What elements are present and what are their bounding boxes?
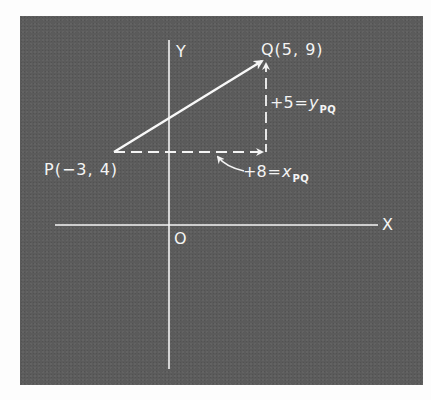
curved-pointer-arrow <box>218 157 244 171</box>
x-component-var: x <box>282 162 291 181</box>
diagram-canvas: Y X O Q(5, 9) P(−3, 4) +5=yPQ +8=xPQ <box>0 0 431 400</box>
y-component-var: y <box>309 93 318 112</box>
diagram-svg <box>0 0 431 400</box>
point-q-label: Q(5, 9) <box>261 42 324 58</box>
y-component-sub: PQ <box>319 104 336 115</box>
x-axis-label: X <box>382 217 393 233</box>
y-component-value: +5 <box>270 93 294 112</box>
origin-label: O <box>174 231 187 247</box>
vector-pq-arrow <box>114 61 262 152</box>
x-component-eq: = <box>268 162 281 181</box>
x-component-label: +8=xPQ <box>243 164 309 180</box>
x-component-sub: PQ <box>292 173 309 184</box>
y-component-eq: = <box>295 93 308 112</box>
y-component-label: +5=yPQ <box>270 95 336 111</box>
x-component-value: +8 <box>243 162 267 181</box>
y-axis-label: Y <box>176 44 186 60</box>
point-p-label: P(−3, 4) <box>44 162 118 178</box>
